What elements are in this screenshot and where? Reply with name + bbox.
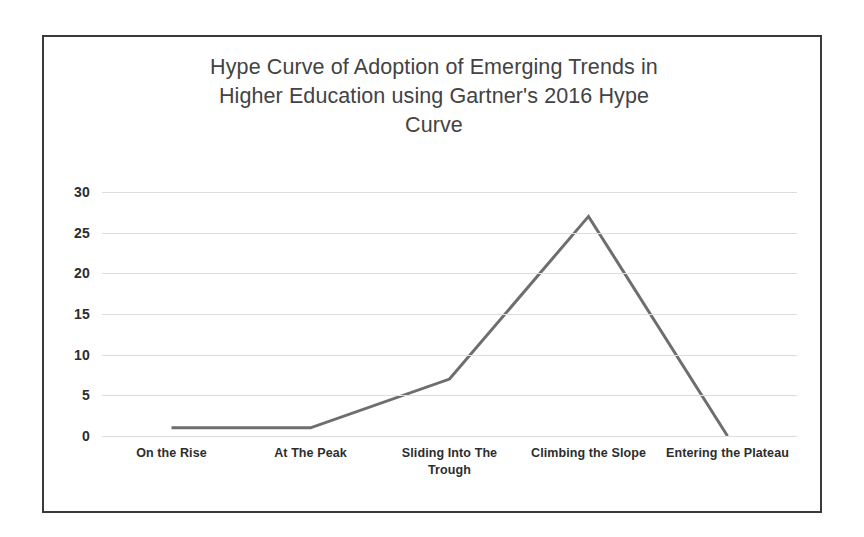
- y-tick-label: 30: [74, 184, 90, 200]
- y-tick-label: 10: [74, 347, 90, 363]
- y-tick-label: 20: [74, 265, 90, 281]
- chart-frame: Hype Curve of Adoption of Emerging Trend…: [42, 35, 822, 513]
- y-tick-label: 0: [82, 428, 90, 444]
- gridline: [102, 233, 797, 234]
- chart-title: Hype Curve of Adoption of Emerging Trend…: [104, 53, 764, 140]
- gridline: [102, 314, 797, 315]
- x-tick-label: Entering the Plateau: [658, 445, 797, 462]
- gridline: [102, 192, 797, 193]
- y-tick-label: 25: [74, 225, 90, 241]
- x-tick-label: Climbing the Slope: [519, 445, 658, 462]
- y-tick-label: 15: [74, 306, 90, 322]
- gridline: [102, 355, 797, 356]
- x-tick-label: On the Rise: [102, 445, 241, 462]
- y-axis: 051015202530: [44, 192, 96, 436]
- x-axis: On the RiseAt The PeakSliding Into The T…: [102, 445, 797, 505]
- plot-area: [102, 192, 797, 436]
- gridline: [102, 395, 797, 396]
- x-tick-label: Sliding Into The Trough: [380, 445, 519, 479]
- y-tick-label: 5: [82, 387, 90, 403]
- gridline: [102, 273, 797, 274]
- x-tick-label: At The Peak: [241, 445, 380, 462]
- gridline: [102, 436, 797, 437]
- series-polyline: [172, 216, 728, 436]
